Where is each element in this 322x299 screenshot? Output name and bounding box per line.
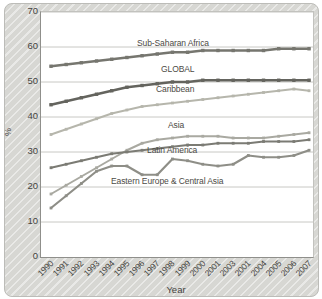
- data-point-marker: [247, 79, 250, 82]
- data-point-marker: [50, 133, 53, 136]
- data-point-marker: [156, 52, 159, 55]
- chart-figure: % 706050403020100 Sub-Saharan AfricaGLOB…: [0, 0, 322, 299]
- data-point-marker: [262, 137, 265, 140]
- y-tick-label-60: 60: [16, 41, 38, 51]
- data-point-marker: [171, 158, 174, 161]
- plot-area: Sub-Saharan AfricaGLOBALCaribbeanAsiaLat…: [40, 11, 314, 258]
- x-axis-title: Year: [40, 284, 312, 295]
- data-point-marker: [262, 140, 265, 143]
- data-point-marker: [95, 59, 98, 62]
- data-point-marker: [201, 135, 204, 138]
- series-label-3: Asia: [168, 120, 184, 130]
- data-point-marker: [201, 163, 204, 166]
- data-point-marker: [308, 149, 311, 152]
- data-point-marker: [307, 79, 310, 82]
- data-point-marker: [110, 158, 113, 161]
- data-point-marker: [186, 100, 189, 103]
- data-point-marker: [201, 79, 204, 82]
- data-point-marker: [292, 140, 295, 143]
- data-point-marker: [232, 95, 235, 98]
- data-point-marker: [141, 149, 144, 152]
- data-point-marker: [80, 96, 83, 99]
- data-point-marker: [110, 89, 113, 92]
- data-point-marker: [217, 165, 220, 168]
- data-point-marker: [262, 49, 265, 52]
- data-point-marker: [65, 184, 68, 187]
- data-point-marker: [292, 47, 295, 50]
- data-point-marker: [95, 156, 98, 159]
- data-point-marker: [247, 142, 250, 145]
- data-point-marker: [110, 58, 113, 61]
- data-point-marker: [277, 89, 280, 92]
- data-point-marker: [80, 61, 83, 64]
- series-label-2: Caribbean: [156, 84, 194, 94]
- data-point-marker: [110, 112, 113, 115]
- data-point-marker: [140, 84, 143, 87]
- data-point-marker: [126, 109, 129, 112]
- y-axis-title: %: [3, 123, 13, 141]
- data-point-marker: [80, 123, 83, 126]
- data-point-marker: [247, 137, 250, 140]
- data-point-marker: [186, 135, 189, 138]
- data-point-marker: [64, 63, 67, 66]
- data-point-marker: [65, 194, 68, 197]
- data-point-marker: [65, 163, 68, 166]
- data-point-marker: [231, 79, 234, 82]
- y-tick-label-70: 70: [16, 6, 38, 16]
- line-chart-canvas: [41, 12, 313, 257]
- data-point-marker: [232, 137, 235, 140]
- series-label-1: GLOBAL: [161, 64, 194, 74]
- data-point-marker: [65, 128, 68, 131]
- data-point-marker: [49, 65, 52, 68]
- data-point-marker: [186, 159, 189, 162]
- data-point-marker: [292, 154, 295, 157]
- data-point-marker: [141, 105, 144, 108]
- series-label-4: Latin America: [147, 145, 197, 155]
- data-point-marker: [217, 96, 220, 99]
- data-point-marker: [307, 47, 310, 50]
- data-point-marker: [262, 156, 265, 159]
- data-point-marker: [217, 135, 220, 138]
- data-point-marker: [292, 79, 295, 82]
- data-point-marker: [141, 142, 144, 145]
- data-point-marker: [50, 193, 53, 196]
- data-point-marker: [262, 79, 265, 82]
- data-point-marker: [126, 151, 129, 154]
- data-point-marker: [171, 51, 174, 54]
- y-tick-label-30: 30: [16, 146, 38, 156]
- data-point-marker: [201, 98, 204, 101]
- data-point-marker: [201, 49, 204, 52]
- data-point-marker: [125, 56, 128, 59]
- data-point-marker: [308, 138, 311, 141]
- data-point-marker: [277, 140, 280, 143]
- data-point-marker: [110, 152, 113, 155]
- data-point-marker: [95, 93, 98, 96]
- data-point-marker: [156, 138, 159, 141]
- data-point-marker: [231, 49, 234, 52]
- data-point-marker: [171, 102, 174, 105]
- data-point-marker: [95, 166, 98, 169]
- data-point-marker: [80, 182, 83, 185]
- data-point-marker: [308, 89, 311, 92]
- data-point-marker: [277, 135, 280, 138]
- data-point-marker: [247, 93, 250, 96]
- data-point-marker: [277, 47, 280, 50]
- data-point-marker: [232, 142, 235, 145]
- data-point-marker: [247, 154, 250, 157]
- data-point-marker: [110, 165, 113, 168]
- data-point-marker: [292, 88, 295, 91]
- data-point-marker: [262, 91, 265, 94]
- series-label-0: Sub-Saharan Africa: [137, 38, 209, 48]
- data-point-marker: [171, 137, 174, 140]
- data-point-marker: [232, 163, 235, 166]
- series-label-5: Eastern Europe & Central Asia: [111, 176, 223, 186]
- data-point-marker: [216, 49, 219, 52]
- data-point-marker: [50, 166, 53, 169]
- y-tick-label-20: 20: [16, 181, 38, 191]
- data-point-marker: [216, 79, 219, 82]
- y-tick-label-10: 10: [16, 216, 38, 226]
- y-tick-label-0: 0: [16, 251, 38, 261]
- data-point-marker: [80, 175, 83, 178]
- data-point-marker: [277, 79, 280, 82]
- data-point-marker: [64, 100, 67, 103]
